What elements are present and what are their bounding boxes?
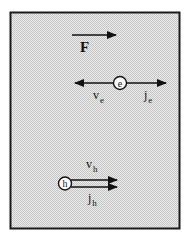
force-label: F: [80, 39, 89, 55]
hole-symbol: h: [63, 178, 68, 189]
diagram-panel: [11, 13, 180, 229]
carrier-drift-diagram: F e ve je h vh jh: [0, 0, 189, 242]
electron-symbol: e: [118, 78, 123, 89]
